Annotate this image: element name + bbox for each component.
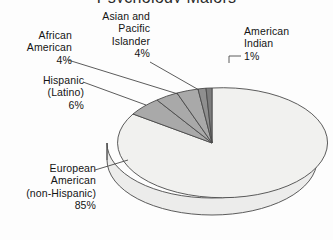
leader-line-asian-pacific-islander	[150, 62, 199, 90]
label-hispanic: Hispanic (Latino) 6%	[12, 74, 84, 111]
pie-chart-figure: Psychology Majors	[0, 0, 333, 240]
label-european-american: European American (non-Hispanic) 85%	[0, 162, 96, 212]
label-asian-pacific-islander: Asian and Pacific Islander 4%	[78, 10, 150, 60]
leader-line-african-american	[68, 60, 178, 94]
label-african-american: African American 4%	[0, 29, 72, 66]
leader-line-american-indian	[229, 56, 241, 63]
leader-line-hispanic	[83, 82, 146, 105]
label-american-indian: American Indian 1%	[244, 25, 324, 62]
